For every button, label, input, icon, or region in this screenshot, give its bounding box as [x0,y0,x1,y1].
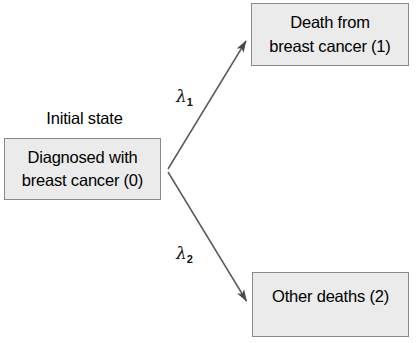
initial-state-label: Initial state [32,109,137,128]
rate-label-lambda-2: λ2 [176,243,193,265]
state-box-death-breast-cancer-line-2: breast cancer (1) [269,35,390,58]
state-box-diagnosed-line-1: Diagnosed with [27,146,137,169]
diagram-canvas: Initial state Diagnosed with breast canc… [0,0,417,343]
rate-subscript-2: 2 [187,253,193,265]
arrow-line-to-other-deaths [168,172,247,301]
state-box-diagnosed[interactable]: Diagnosed with breast cancer (0) [4,138,161,200]
rate-label-lambda-1: λ1 [176,86,193,108]
rate-symbol-lambda-1: λ [176,86,187,106]
state-box-other-deaths[interactable]: Other deaths (2) [252,272,409,337]
state-box-diagnosed-line-2: breast cancer (0) [22,169,143,192]
state-box-other-deaths-line-1: Other deaths (2) [272,285,389,308]
state-box-death-breast-cancer[interactable]: Death from breast cancer (1) [251,3,409,66]
state-box-death-breast-cancer-line-1: Death from [290,11,370,34]
rate-subscript-1: 1 [187,96,193,108]
rate-symbol-lambda-2: λ [176,243,187,263]
